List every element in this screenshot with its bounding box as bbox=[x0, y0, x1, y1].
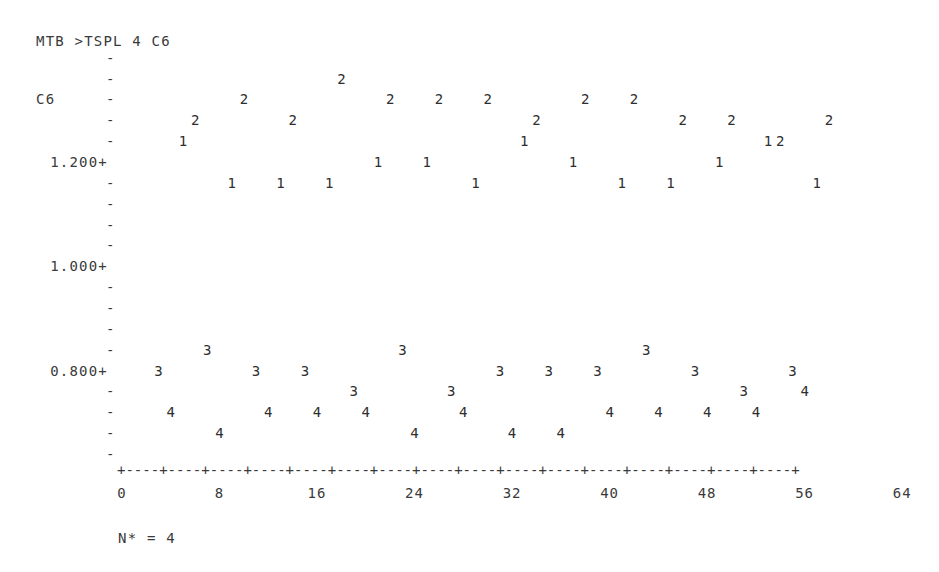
x-tick-label: 40 bbox=[600, 485, 619, 501]
y-tick-mark: - bbox=[106, 300, 114, 316]
x-tick-label: 8 bbox=[215, 485, 224, 501]
y-tick-mark: - bbox=[106, 404, 114, 420]
data-point-season-2: 2 bbox=[825, 112, 833, 128]
data-point-season-2: 2 bbox=[435, 91, 443, 107]
data-point-season-1: 1 bbox=[227, 175, 235, 191]
y-tick-label: 0.800+ bbox=[18, 363, 108, 379]
data-point-season-3: 3 bbox=[788, 363, 796, 379]
y-tick-label: 1.000+ bbox=[18, 258, 108, 274]
data-point-season-4: 4 bbox=[752, 404, 760, 420]
y-tick-mark: - bbox=[106, 321, 114, 337]
data-point-season-1: 1 bbox=[423, 154, 431, 170]
y-axis-name: C6 bbox=[36, 91, 55, 107]
data-point-season-3: 3 bbox=[447, 383, 455, 399]
data-point-season-1: 1 bbox=[569, 154, 577, 170]
x-tick-label: 64 bbox=[893, 485, 912, 501]
y-tick-mark: - bbox=[106, 446, 114, 462]
data-point-season-3: 3 bbox=[301, 363, 309, 379]
x-tick-label: 32 bbox=[503, 485, 522, 501]
x-tick-label: 24 bbox=[405, 485, 424, 501]
data-point-season-3: 3 bbox=[593, 363, 601, 379]
command-line: MTB >TSPL 4 C6 bbox=[36, 33, 171, 49]
data-point-season-3: 3 bbox=[691, 363, 699, 379]
data-point-season-2: 2 bbox=[581, 91, 589, 107]
x-tick-label: 56 bbox=[795, 485, 814, 501]
data-point-season-2: 2 bbox=[532, 112, 540, 128]
x-tick-label: 0 bbox=[117, 485, 126, 501]
data-point-season-1: 1 bbox=[764, 133, 772, 149]
data-point-season-3: 3 bbox=[349, 383, 357, 399]
data-point-season-1: 1 bbox=[179, 133, 187, 149]
data-point-season-3: 3 bbox=[739, 383, 747, 399]
y-tick-mark: - bbox=[106, 50, 114, 66]
data-point-season-4: 4 bbox=[167, 404, 175, 420]
y-tick-mark: - bbox=[106, 237, 114, 253]
data-point-season-4: 4 bbox=[654, 404, 662, 420]
missing-count-note: N* = 4 bbox=[118, 530, 176, 546]
data-point-season-2: 2 bbox=[630, 91, 638, 107]
y-tick-mark: - bbox=[106, 425, 114, 441]
data-point-season-3: 3 bbox=[496, 363, 504, 379]
data-point-season-3: 3 bbox=[252, 363, 260, 379]
data-point-season-3: 3 bbox=[398, 342, 406, 358]
data-point-season-4: 4 bbox=[800, 383, 808, 399]
x-axis-rule: +----+----+----+----+----+----+----+----… bbox=[117, 462, 800, 478]
data-point-season-2: 2 bbox=[727, 112, 735, 128]
y-tick-mark: - bbox=[106, 71, 114, 87]
x-tick-label: 16 bbox=[308, 485, 327, 501]
y-tick-label: 1.200+ bbox=[18, 154, 108, 170]
data-point-season-1: 1 bbox=[276, 175, 284, 191]
data-point-season-3: 3 bbox=[203, 342, 211, 358]
data-point-season-2: 2 bbox=[240, 91, 248, 107]
data-point-season-1: 1 bbox=[618, 175, 626, 191]
data-point-season-3: 3 bbox=[544, 363, 552, 379]
data-point-season-2: 2 bbox=[337, 71, 345, 87]
data-point-season-1: 1 bbox=[813, 175, 821, 191]
y-tick-mark: - bbox=[106, 383, 114, 399]
data-point-season-3: 3 bbox=[642, 342, 650, 358]
y-tick-mark: - bbox=[106, 217, 114, 233]
data-point-season-3: 3 bbox=[154, 363, 162, 379]
data-point-season-1: 1 bbox=[715, 154, 723, 170]
y-tick-mark: - bbox=[106, 342, 114, 358]
y-tick-mark: - bbox=[106, 196, 114, 212]
data-point-season-4: 4 bbox=[605, 404, 613, 420]
data-point-season-1: 1 bbox=[374, 154, 382, 170]
x-tick-label: 48 bbox=[698, 485, 717, 501]
data-point-season-4: 4 bbox=[410, 425, 418, 441]
data-point-season-4: 4 bbox=[703, 404, 711, 420]
data-point-season-1: 1 bbox=[520, 133, 528, 149]
y-tick-mark: - bbox=[106, 279, 114, 295]
data-point-season-1: 1 bbox=[471, 175, 479, 191]
data-point-season-4: 4 bbox=[264, 404, 272, 420]
y-tick-mark: - bbox=[106, 133, 114, 149]
data-point-season-2: 2 bbox=[483, 91, 491, 107]
y-tick-mark: - bbox=[106, 91, 114, 107]
data-point-season-2: 2 bbox=[288, 112, 296, 128]
y-tick-mark: - bbox=[106, 175, 114, 191]
data-point-season-2: 2 bbox=[386, 91, 394, 107]
data-point-season-4: 4 bbox=[215, 425, 223, 441]
data-point-season-2: 2 bbox=[679, 112, 687, 128]
data-point-season-2: 2 bbox=[191, 112, 199, 128]
data-point-season-4: 4 bbox=[508, 425, 516, 441]
data-point-season-1: 1 bbox=[666, 175, 674, 191]
data-point-season-4: 4 bbox=[459, 404, 467, 420]
data-point-season-1: 1 bbox=[325, 175, 333, 191]
y-tick-mark: - bbox=[106, 112, 114, 128]
data-point-season-2: 2 bbox=[776, 133, 784, 149]
data-point-season-4: 4 bbox=[362, 404, 370, 420]
data-point-season-4: 4 bbox=[557, 425, 565, 441]
data-point-season-4: 4 bbox=[313, 404, 321, 420]
